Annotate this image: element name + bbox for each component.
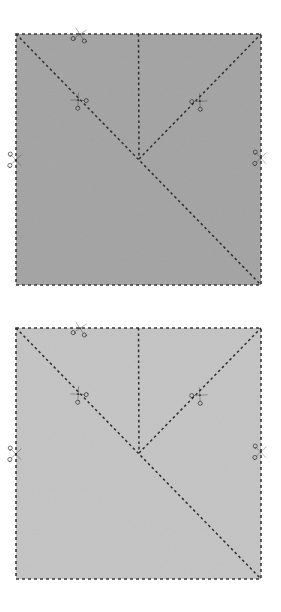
- panel-top-canvas: [0, 0, 281, 306]
- panel-bottom-canvas: [0, 306, 281, 612]
- diagram-panel-top: [0, 0, 281, 306]
- diagram-panel-bottom: [0, 306, 281, 612]
- fold-cut-diagram: [0, 0, 281, 612]
